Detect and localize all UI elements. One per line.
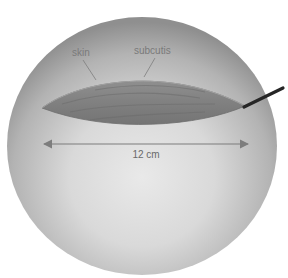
skin-label: skin bbox=[72, 47, 90, 58]
subcutis-label: subcutis bbox=[134, 45, 171, 56]
measurement-label: 12 cm bbox=[132, 149, 159, 160]
wound-diagram: skin subcutis 12 cm bbox=[0, 0, 288, 278]
diagram-canvas: skin subcutis 12 cm bbox=[0, 0, 288, 278]
